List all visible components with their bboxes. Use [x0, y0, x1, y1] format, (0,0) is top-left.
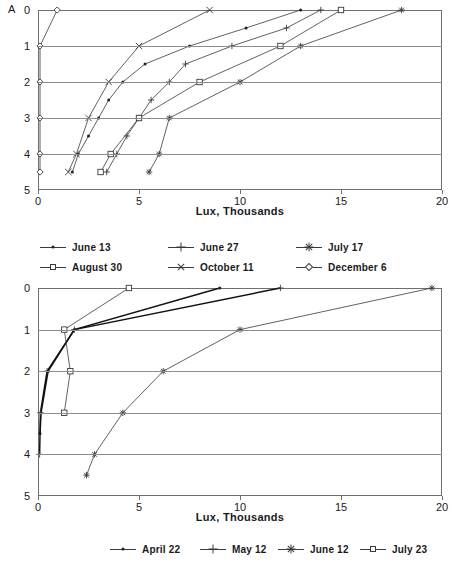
- x-tick: [139, 496, 140, 500]
- y-tick-label: 1: [8, 41, 30, 52]
- data-point-square: [126, 285, 131, 290]
- legend-label: April 22: [142, 544, 180, 555]
- legend-item-april-22[interactable]: April 22: [110, 540, 180, 558]
- data-point-star: [146, 169, 152, 175]
- series-line-july-23: [64, 288, 129, 413]
- legend-label: June 13: [72, 242, 111, 253]
- gridline: [38, 330, 442, 331]
- legend-item-july-17[interactable]: July 17: [296, 238, 363, 256]
- series-layer-a: [38, 10, 442, 190]
- data-point-dot: [245, 27, 248, 30]
- data-point-dot: [71, 171, 74, 174]
- y-tick-label: 0: [8, 5, 30, 16]
- series-line-july-17: [149, 10, 402, 172]
- plot-area-b: [38, 288, 442, 496]
- data-point-ex: [207, 7, 213, 13]
- x-axis-title-a: Lux, Thousands: [38, 206, 442, 217]
- legend-marker-dot-icon: [110, 543, 136, 555]
- data-point-square: [338, 7, 343, 12]
- legend-item-december-6[interactable]: December 6: [296, 258, 387, 276]
- series-line-october-11: [68, 10, 209, 172]
- data-point-plus: [277, 285, 283, 291]
- gridline: [38, 413, 442, 414]
- legend-marker-plus-icon: [200, 543, 226, 555]
- legend-label: October 11: [200, 262, 254, 273]
- data-point-dot: [87, 135, 90, 138]
- legend-label: December 6: [328, 262, 387, 273]
- gridline: [38, 118, 442, 119]
- legend-item-october-11[interactable]: October 11: [168, 258, 254, 276]
- x-tick: [442, 190, 443, 194]
- y-tick-label: 4: [8, 149, 30, 160]
- x-tick: [38, 496, 39, 500]
- legend-item-june-12[interactable]: June 12: [278, 540, 349, 558]
- legend-marker-dot-icon: [40, 241, 66, 253]
- legend-item-may-12[interactable]: May 12: [200, 540, 267, 558]
- y-tick-label: 0: [8, 283, 30, 294]
- data-point-diamond: [54, 7, 60, 13]
- legend-label: May 12: [232, 544, 267, 555]
- legend-label: June 12: [310, 544, 349, 555]
- y-tick-label: 2: [8, 366, 30, 377]
- y-tick-label: 2: [8, 77, 30, 88]
- x-tick: [341, 496, 342, 500]
- legend-marker-star-icon: [296, 241, 322, 253]
- legend-label: July 17: [328, 242, 363, 253]
- x-tick: [442, 496, 443, 500]
- series-line-june-27: [107, 10, 321, 172]
- series-line-august-30: [101, 10, 341, 172]
- x-tick: [341, 190, 342, 194]
- x-axis-title-b: Lux, Thousands: [38, 512, 442, 523]
- legend-item-june-27[interactable]: June 27: [168, 238, 239, 256]
- data-point-square: [98, 169, 103, 174]
- legend-marker-square-icon: [40, 261, 66, 273]
- data-point-dot: [299, 9, 302, 12]
- data-point-dot: [107, 99, 110, 102]
- legend-item-june-13[interactable]: June 13: [40, 238, 111, 256]
- legend-marker-diamond-icon: [296, 261, 322, 273]
- data-point-star: [429, 285, 435, 291]
- data-point-plus: [318, 7, 324, 13]
- data-point-star: [83, 472, 89, 478]
- legend-label: June 27: [200, 242, 239, 253]
- y-tick-label: 3: [8, 408, 30, 419]
- data-point-plus: [103, 169, 109, 175]
- plot-area-a: [38, 10, 442, 190]
- figure-light-attenuation: A 012345 05101520 Lux, Thousands June 13…: [0, 0, 454, 567]
- legend-a: June 13June 27July 17August 30October 11…: [0, 238, 454, 278]
- data-point-star: [398, 7, 404, 13]
- legend-label: July 23: [392, 544, 427, 555]
- legend-marker-ex-icon: [168, 261, 194, 273]
- gridline: [38, 46, 442, 47]
- legend-item-july-23[interactable]: July 23: [360, 540, 427, 558]
- legend-marker-star-icon: [278, 543, 304, 555]
- y-tick-label: 5: [8, 491, 30, 502]
- y-tick-label: 3: [8, 113, 30, 124]
- legend-label: August 30: [72, 262, 122, 273]
- legend-item-august-30[interactable]: August 30: [40, 258, 122, 276]
- y-tick-label: 4: [8, 449, 30, 460]
- y-tick-label: 5: [8, 185, 30, 196]
- x-tick: [240, 496, 241, 500]
- x-tick: [139, 190, 140, 194]
- x-tick: [38, 190, 39, 194]
- panel-b: 012345 05101520 Lux, Thousands: [0, 280, 454, 567]
- data-point-dot: [218, 287, 221, 290]
- panel-a: A 012345 05101520 Lux, Thousands: [0, 0, 454, 232]
- series-layer-b: [38, 288, 442, 496]
- gridline: [38, 82, 442, 83]
- gridline: [38, 154, 442, 155]
- gridline: [38, 371, 442, 372]
- x-tick: [240, 190, 241, 194]
- legend-b: April 22May 12June 12July 23: [0, 540, 454, 564]
- legend-marker-plus-icon: [168, 241, 194, 253]
- gridline: [38, 454, 442, 455]
- legend-marker-square-icon: [360, 543, 386, 555]
- data-point-ex: [65, 169, 71, 175]
- data-point-diamond: [37, 169, 43, 175]
- y-tick-label: 1: [8, 325, 30, 336]
- data-point-dot: [144, 63, 147, 66]
- data-point-plus: [283, 25, 289, 31]
- series-line-december-6: [40, 10, 57, 172]
